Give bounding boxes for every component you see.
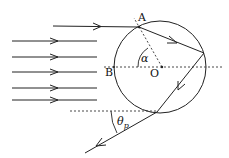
ray-diagram: A B O α θp: [0, 0, 229, 158]
label-O: O: [150, 67, 159, 80]
point-O-dot: [161, 66, 163, 68]
label-A: A: [137, 11, 147, 24]
point-A-dot: [138, 26, 140, 28]
label-B: B: [105, 66, 113, 79]
incident-rays: [12, 38, 97, 103]
point-B-dot: [113, 66, 115, 68]
label-alpha: α: [141, 52, 149, 65]
label-theta-p: θp: [117, 115, 129, 130]
